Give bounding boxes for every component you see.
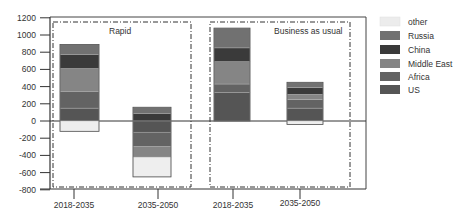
bar-segment-russia: [214, 28, 250, 48]
bar-segment-africa: [214, 84, 250, 93]
bar-segment-china: [287, 87, 323, 94]
y-tick-label: 1000: [17, 30, 36, 40]
y-tick-label: 800: [22, 47, 36, 57]
legend-swatch: [380, 59, 400, 68]
legend-label: US: [408, 85, 420, 95]
bar-segment-us: [287, 108, 323, 121]
x-tick-label: 2035-2050: [280, 198, 321, 208]
bar-segment-middle-east: [133, 147, 171, 157]
bar-segment-middle-east: [60, 69, 99, 92]
y-tick-label: -200: [19, 133, 36, 143]
legend-label: other: [408, 17, 428, 27]
legend-swatch: [380, 72, 400, 81]
y-tick-label: 1200: [17, 13, 36, 23]
bar-segment-us: [133, 121, 171, 132]
legend-swatch: [380, 31, 400, 40]
bar-segment-middle-east: [214, 62, 250, 84]
y-tick-label: -600: [19, 168, 36, 178]
y-tick-label: 400: [22, 82, 36, 92]
stacked-bar-chart: 120010008006004002000-200-400-600-800 Ra…: [0, 0, 463, 224]
x-tick-label: 2018-2035: [54, 200, 95, 210]
bar-segment-china: [214, 48, 250, 62]
bar-stack: [287, 82, 323, 124]
legend-item-china: China: [380, 45, 430, 55]
bar-segment-russia: [287, 82, 323, 87]
x-axis-ticks: 2018-20352035-20502018-20352035-2050: [54, 189, 321, 210]
legend-swatch: [380, 45, 400, 54]
legend-item-us: US: [380, 85, 420, 95]
legend-label: Russia: [408, 31, 434, 41]
y-tick-label: 200: [22, 99, 36, 109]
y-tick-label: -800: [19, 185, 36, 195]
bar-segment-other: [133, 157, 171, 177]
bar-segment-china: [60, 55, 99, 69]
bar-stack: [60, 44, 99, 131]
x-tick-label: 2035-2050: [138, 200, 179, 210]
bar-segment-africa: [287, 100, 323, 109]
legend-item-africa: Africa: [380, 72, 430, 82]
legend-label: Africa: [408, 72, 430, 82]
legend-item-russia: Russia: [380, 31, 434, 41]
bar-segment-russia: [60, 44, 99, 54]
bau-scenario-label: Business as usual: [274, 26, 343, 36]
bar-segment-us: [60, 108, 99, 121]
legend-label: China: [408, 45, 430, 55]
bar-segment-us: [214, 93, 250, 121]
legend: otherRussiaChinaMiddle EastAfricaUS: [380, 17, 453, 95]
y-axis-ticks: 120010008006004002000-200-400-600-800: [17, 13, 50, 195]
rapid-scenario-label: Rapid: [109, 26, 131, 36]
bar-segment-china: [133, 113, 171, 121]
legend-item-middle-east: Middle East: [380, 59, 453, 69]
bar-segment-other: [60, 121, 99, 131]
bar-stack: [133, 107, 171, 177]
legend-swatch: [380, 85, 400, 94]
y-tick-label: 0: [31, 116, 36, 126]
bar-segment-russia: [133, 107, 171, 113]
bar-segment-middle-east: [287, 94, 323, 99]
bar-segment-other: [287, 121, 323, 124]
legend-label: Middle East: [408, 59, 453, 69]
y-tick-label: 600: [22, 64, 36, 74]
x-tick-label: 2018-2035: [213, 200, 254, 210]
bar-stack: [214, 28, 250, 121]
legend-swatch: [380, 17, 400, 26]
bar-segment-africa: [60, 92, 99, 108]
bar-segment-africa: [133, 132, 171, 147]
legend-item-other: other: [380, 17, 428, 27]
y-tick-label: -400: [19, 150, 36, 160]
